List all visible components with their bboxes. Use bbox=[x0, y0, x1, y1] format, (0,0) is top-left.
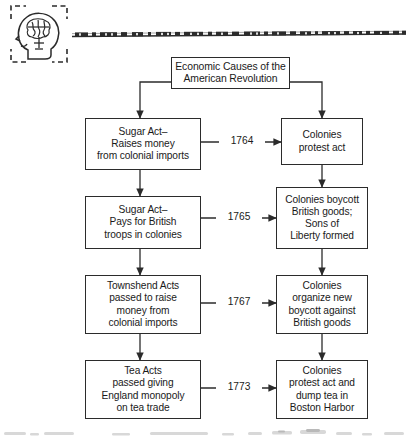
connector-title-to-right bbox=[290, 82, 322, 118]
year-label-1765: 1765 bbox=[216, 211, 262, 223]
bottom-scan-artifact-art bbox=[0, 424, 409, 439]
bottom-scan-artifact bbox=[0, 424, 409, 439]
connector-title-to-left bbox=[140, 82, 171, 118]
node-left-sugar-act-revenue[interactable]: Sugar Act– Raises money from colonial im… bbox=[85, 118, 201, 170]
node-right-colonies-new-boycott[interactable]: Colonies organize new boycott against Br… bbox=[276, 275, 368, 334]
year-label-1767: 1767 bbox=[216, 296, 262, 308]
node-left-sugar-act-troops[interactable]: Sugar Act– Pays for British troops in co… bbox=[85, 196, 201, 249]
node-right-boston-harbor[interactable]: Colonies protest act and dump tea in Bos… bbox=[276, 360, 368, 419]
flowchart: Economic Causes of the American Revoluti… bbox=[0, 0, 409, 439]
year-label-1764: 1764 bbox=[219, 135, 265, 147]
node-right-colonies-protest-act[interactable]: Colonies protest act bbox=[281, 118, 363, 165]
year-label-1773: 1773 bbox=[216, 381, 262, 393]
node-right-colonies-boycott[interactable]: Colonies boycott British goods; Sons of … bbox=[276, 187, 368, 249]
node-left-townshend-acts[interactable]: Townshend Acts passed to raise money fro… bbox=[85, 275, 201, 334]
node-title[interactable]: Economic Causes of the American Revoluti… bbox=[171, 57, 290, 89]
node-left-tea-acts[interactable]: Tea Acts passed giving England monopoly … bbox=[85, 360, 201, 419]
